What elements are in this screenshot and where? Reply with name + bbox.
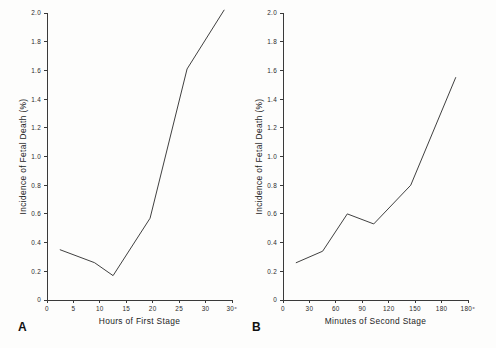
panel-a: 00.20.40.60.81.01.21.41.61.82.0051015202… <box>0 0 248 348</box>
y-axis-title: Incidence of Fetal Death (%) <box>18 99 28 215</box>
x-tick-label: 20 <box>149 305 157 312</box>
y-tick-label: 1.6 <box>31 67 41 74</box>
x-tick-label: 30⁺ <box>226 305 237 312</box>
y-tick-label: 1.8 <box>267 38 277 45</box>
y-tick-label: 1.0 <box>31 153 41 160</box>
x-tick-label: 0 <box>45 305 49 312</box>
y-tick-label: 1.8 <box>31 38 41 45</box>
y-axis-title: Incidence of Fetal Death (%) <box>254 99 264 215</box>
y-tick-label: 0.4 <box>267 239 277 246</box>
x-tick-label: 120 <box>383 305 395 312</box>
x-tick-label: 180 <box>436 305 448 312</box>
y-tick-label: 1.2 <box>31 124 41 131</box>
x-tick-label: 10 <box>96 305 104 312</box>
x-tick-label: 0 <box>281 305 285 312</box>
x-tick-label: 180⁺ <box>461 305 476 312</box>
x-tick-label: 60 <box>332 305 340 312</box>
x-axis-title: Hours of First Stage <box>99 316 180 326</box>
x-tick-label: 30 <box>202 305 210 312</box>
panel-b-plot: 00.20.40.60.81.01.21.41.61.82.0030609012… <box>248 0 496 348</box>
y-tick-label: 0.6 <box>31 210 41 217</box>
x-tick-label: 5 <box>71 305 75 312</box>
x-tick-label: 25 <box>175 305 183 312</box>
y-tick-label: 0 <box>273 296 277 303</box>
y-tick-label: 0.8 <box>31 182 41 189</box>
y-tick-label: 0.4 <box>31 239 41 246</box>
panel-a-letter: A <box>18 320 27 334</box>
y-tick-label: 1.6 <box>267 67 277 74</box>
y-tick-label: 0.2 <box>31 268 41 275</box>
data-series-line <box>60 10 224 275</box>
y-tick-label: 2.0 <box>31 9 41 16</box>
y-tick-label: 0.8 <box>267 182 277 189</box>
y-tick-label: 1.0 <box>267 153 277 160</box>
x-tick-label: 150 <box>409 305 421 312</box>
figure-root: 00.20.40.60.81.01.21.41.61.82.0051015202… <box>0 0 496 348</box>
x-tick-label: 15 <box>122 305 130 312</box>
y-tick-label: 1.4 <box>267 96 277 103</box>
x-tick-label: 30 <box>306 305 314 312</box>
panel-b-letter: B <box>252 320 261 334</box>
y-tick-label: 0.6 <box>267 210 277 217</box>
panel-a-plot: 00.20.40.60.81.01.21.41.61.82.0051015202… <box>0 0 248 348</box>
x-axis-title: Minutes of Second Stage <box>325 316 427 326</box>
y-tick-label: 1.2 <box>267 124 277 131</box>
panel-b: 00.20.40.60.81.01.21.41.61.82.0030609012… <box>248 0 496 348</box>
data-series-line <box>296 78 455 263</box>
x-tick-label: 90 <box>358 305 366 312</box>
y-tick-label: 1.4 <box>31 96 41 103</box>
y-tick-label: 2.0 <box>267 9 277 16</box>
y-tick-label: 0 <box>37 296 41 303</box>
y-tick-label: 0.2 <box>267 268 277 275</box>
